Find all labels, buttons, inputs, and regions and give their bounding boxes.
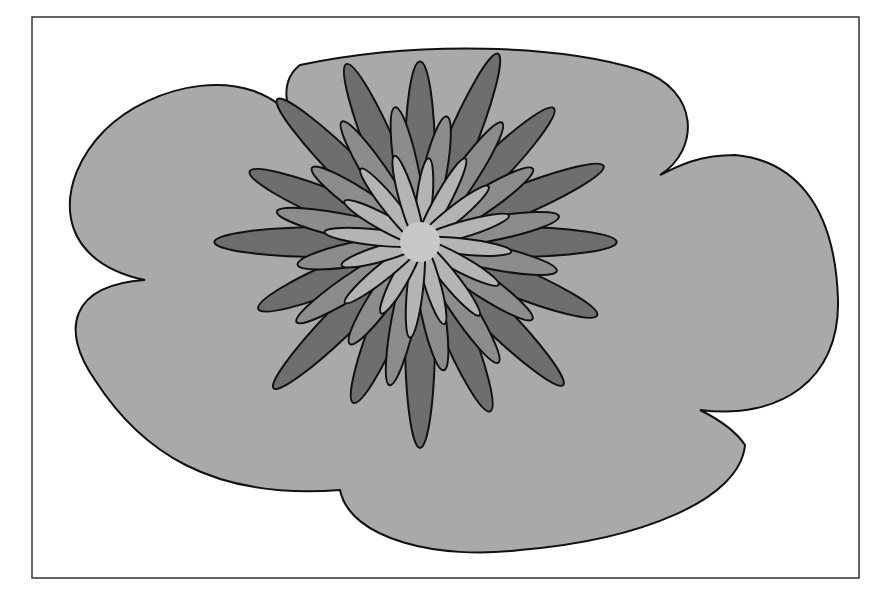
flower-center <box>400 222 440 262</box>
flower-illustration <box>0 0 886 599</box>
